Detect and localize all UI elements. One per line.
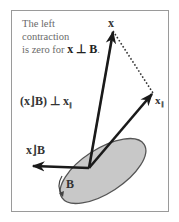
caption-math: x ⊥ B [67, 42, 97, 56]
caption-line-1: The left [22, 18, 100, 31]
label-x: x [108, 16, 114, 31]
label-contraction-perp: (x⌋B) ⊥ x∥ [20, 94, 72, 109]
caption-line-3: is zero for x ⊥ B. [22, 43, 100, 57]
label-x-parallel: x∥ [155, 94, 164, 107]
label-contraction-perp-sub: ∥ [69, 102, 72, 108]
label-bivector: B [66, 177, 74, 192]
projection-dotted-line [113, 31, 153, 93]
caption-line-3-prefix: is zero for [22, 44, 67, 55]
label-x-parallel-sub: ∥ [161, 101, 164, 107]
label-contraction-perp-base: (x⌋B) ⊥ x [20, 94, 69, 108]
caption-line-3-suffix: . [97, 44, 100, 55]
label-contraction: x⌋B [26, 143, 45, 158]
caption-text: The left contraction is zero for x ⊥ B. [22, 18, 100, 57]
bivector-ellipse [50, 126, 156, 216]
